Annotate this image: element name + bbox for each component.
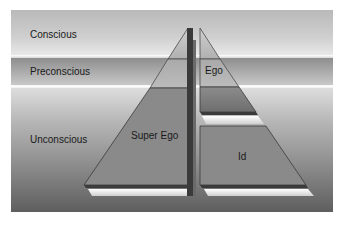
- level-label-unconscious: Unconscious: [30, 134, 87, 145]
- ego-pyramid: [200, 28, 264, 124]
- id-pyramid: [200, 126, 314, 196]
- structure-label-ego: Ego: [205, 65, 223, 76]
- level-label-conscious: Conscious: [30, 29, 77, 40]
- super-ego-pyramid: [84, 28, 196, 196]
- level-label-preconscious: Preconscious: [30, 66, 90, 77]
- structure-label-super-ego: Super Ego: [131, 130, 178, 141]
- structure-label-id: Id: [238, 151, 246, 162]
